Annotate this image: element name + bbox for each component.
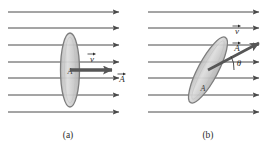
area-normal-label-group: A (233, 41, 241, 53)
area-normal-label: A (118, 74, 125, 84)
panel-a-area-vector: A (118, 72, 126, 84)
figure-background (0, 0, 278, 147)
angle-theta-label: θ (237, 58, 242, 68)
area-normal-label-group: A (118, 72, 126, 84)
velocity-label: v (90, 54, 94, 64)
figure-canvas: A v A (a) (0, 0, 278, 147)
area-normal-label: A (233, 43, 240, 53)
panel-b-caption: (b) (202, 130, 213, 141)
panel-b-area-label: A (200, 84, 206, 93)
physics-flux-figure: A v A (a) (0, 0, 278, 147)
panel-a-caption: (a) (63, 130, 74, 141)
velocity-label: v (235, 26, 239, 36)
